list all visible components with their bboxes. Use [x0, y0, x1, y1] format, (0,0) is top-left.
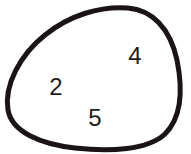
set-diagram: 4 2 5 [0, 0, 191, 154]
element-2: 2 [49, 73, 62, 100]
element-4: 4 [128, 42, 141, 69]
element-5: 5 [88, 104, 101, 131]
